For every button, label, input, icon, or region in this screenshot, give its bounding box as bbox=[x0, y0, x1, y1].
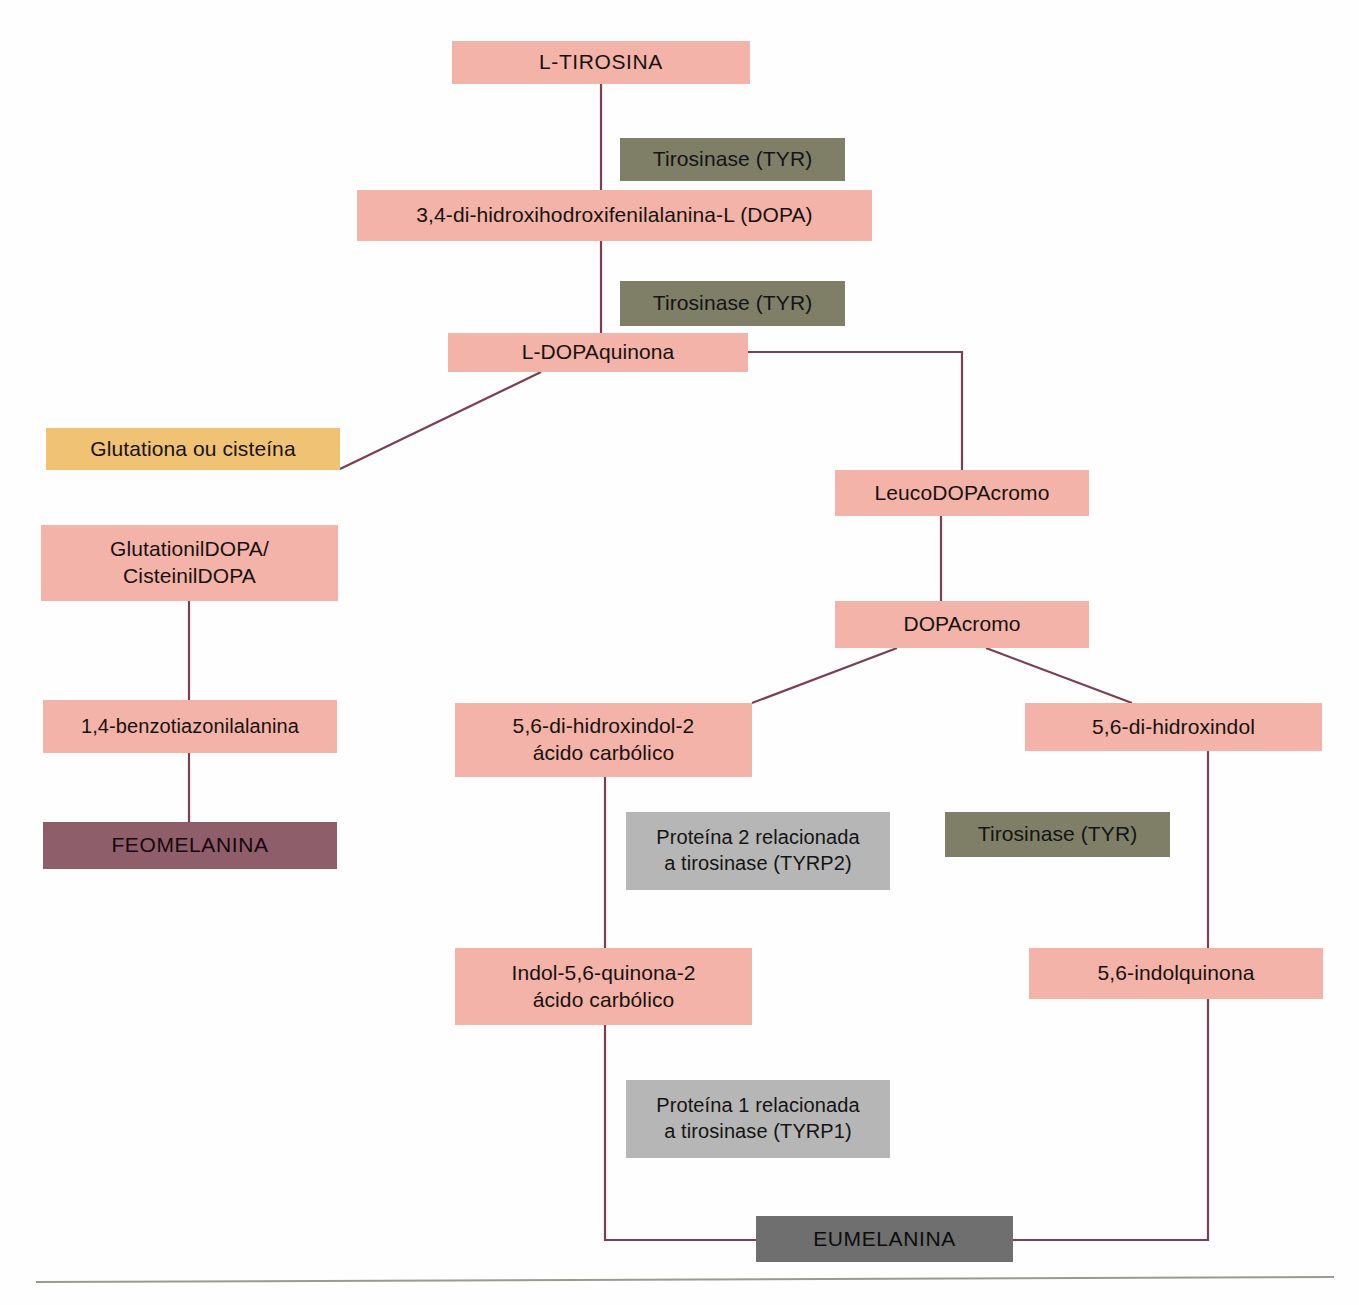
node-benzotiazonilalanina[interactable]: 1,4-benzotiazonilalanina bbox=[43, 700, 337, 753]
node-leucodopacromo[interactable]: LeucoDOPAcromo bbox=[835, 470, 1089, 516]
node-l-tirosina[interactable]: L-TIROSINA bbox=[452, 41, 750, 84]
edge-dopacromo-dihidroxindol bbox=[986, 648, 1132, 703]
node-tirosinase-tyr-1[interactable]: Tirosinase (TYR) bbox=[620, 138, 845, 181]
node-glutationildopa-cisteinildopa[interactable]: GlutationilDOPA/ CisteinilDOPA bbox=[41, 525, 338, 601]
footer-caption bbox=[40, 1294, 1330, 1305]
node-tirosinase-tyr-3[interactable]: Tirosinase (TYR) bbox=[945, 812, 1170, 857]
node-eumelanina[interactable]: EUMELANINA bbox=[756, 1216, 1013, 1262]
melanin-pathway-diagram: L-TIROSINA Tirosinase (TYR) 3,4-di-hidro… bbox=[0, 0, 1359, 1305]
node-tyrp1[interactable]: Proteína 1 relacionada a tirosinase (TYR… bbox=[626, 1080, 890, 1158]
node-indolquinona[interactable]: 5,6-indolquinona bbox=[1029, 948, 1323, 999]
edge-dopacromo-dihidroxindol2 bbox=[752, 648, 897, 703]
node-l-dopaquinona[interactable]: L-DOPAquinona bbox=[448, 333, 748, 372]
node-dihidroxindol[interactable]: 5,6-di-hidroxindol bbox=[1025, 703, 1322, 751]
node-indolquinona-2-acido-carbolico[interactable]: Indol-5,6-quinona-2 ácido carbólico bbox=[455, 948, 752, 1025]
node-dopa[interactable]: 3,4-di-hidroxihodroxifenilalanina-L (DOP… bbox=[357, 190, 872, 241]
node-feomelanina[interactable]: FEOMELANINA bbox=[43, 822, 337, 869]
node-tyrp2[interactable]: Proteína 2 relacionada a tirosinase (TYR… bbox=[626, 812, 890, 890]
node-glutationa-ou-cisteina[interactable]: Glutationa ou cisteína bbox=[46, 428, 340, 470]
node-tirosinase-tyr-2[interactable]: Tirosinase (TYR) bbox=[620, 281, 845, 326]
edge-indolquinona-eumelanina bbox=[1013, 999, 1208, 1240]
edge-dopaquinona-leucodopacromo bbox=[748, 352, 962, 470]
node-dihidroxindol-2-acido-carbolico[interactable]: 5,6-di-hidroxindol-2 ácido carbólico bbox=[455, 703, 752, 777]
node-dopacromo[interactable]: DOPAcromo bbox=[835, 601, 1089, 648]
edge-dopaquinona-glutationa bbox=[340, 372, 541, 469]
